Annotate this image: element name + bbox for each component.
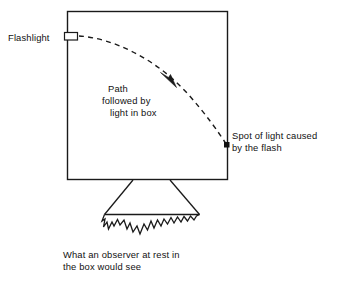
figure-canvas: Flashlight Path followed by light in box… (0, 0, 348, 285)
funnel-left-side (105, 180, 134, 215)
flashlight-emitter (65, 33, 78, 41)
caption-line-1: What an observer at rest in (63, 249, 180, 260)
path-label-line-3: light in box (110, 107, 157, 118)
spot-label-line-2: by the flash (232, 142, 282, 153)
dashed-light-path (79, 36, 227, 145)
path-label-line-1: Path (108, 83, 128, 94)
figure-root: Flashlight Path followed by light in box… (0, 0, 348, 285)
spot-label-line-1: Spot of light caused (232, 130, 317, 141)
jagged-beam-edge (102, 215, 200, 235)
flashlight-label: Flashlight (8, 32, 50, 43)
path-label-line-2: followed by (102, 95, 151, 106)
funnel-right-side (170, 180, 200, 215)
light-spot-marker (224, 142, 230, 148)
caption-line-2: the box would see (63, 261, 141, 272)
path-direction-arrow (161, 73, 177, 88)
